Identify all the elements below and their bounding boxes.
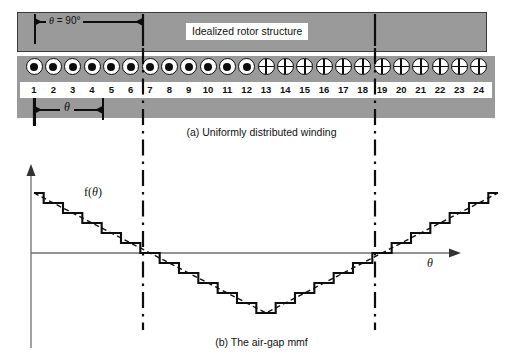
- slot-number-19: 19: [373, 83, 391, 97]
- slot-number-24: 24: [470, 83, 488, 97]
- slot-number-1: 1: [25, 83, 43, 97]
- theta-tick-start: [34, 98, 36, 126]
- slot-number-15: 15: [296, 83, 314, 97]
- reference-tick-mid-top: [142, 14, 144, 44]
- slot-number-14: 14: [276, 83, 294, 97]
- theta-label-b: θ: [427, 257, 433, 269]
- slot-number-10: 10: [199, 83, 217, 97]
- slot-number-12: 12: [238, 83, 256, 97]
- slot-number-11: 11: [218, 83, 236, 97]
- slot-number-5: 5: [102, 83, 120, 97]
- slot-number-18: 18: [354, 83, 372, 97]
- angle-90-label: θ = 90°: [46, 15, 83, 27]
- slot-number-22: 22: [431, 83, 449, 97]
- slot-number-13: 13: [257, 83, 275, 97]
- slot-number-16: 16: [315, 83, 333, 97]
- slot-number-3: 3: [64, 83, 82, 97]
- slot-number-21: 21: [412, 83, 430, 97]
- slot-number-row: 123456789101112131415161718192021222324: [0, 0, 523, 364]
- slot-number-6: 6: [122, 83, 140, 97]
- slot-number-9: 9: [180, 83, 198, 97]
- caption-b: (b) The air-gap mmf: [0, 336, 523, 349]
- figure-container: Idealized rotor structure 12345678910111…: [0, 0, 523, 364]
- slot-number-4: 4: [83, 83, 101, 97]
- slot-number-23: 23: [450, 83, 468, 97]
- theta-label-a: θ: [60, 101, 74, 113]
- f-theta-label: f(θ): [84, 186, 102, 198]
- slot-number-8: 8: [160, 83, 178, 97]
- slot-number-20: 20: [392, 83, 410, 97]
- slot-number-7: 7: [141, 83, 159, 97]
- slot-number-2: 2: [44, 83, 62, 97]
- slot-number-17: 17: [334, 83, 352, 97]
- caption-a: (a) Uniformly distributed winding: [0, 126, 523, 139]
- reference-tick-left-top: [34, 14, 36, 44]
